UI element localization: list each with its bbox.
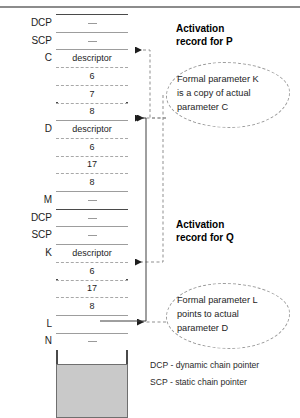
stack-row-label: D xyxy=(0,124,52,134)
activation-q-line2: record for Q xyxy=(176,231,234,244)
bubble-l-line2: points to actual xyxy=(177,307,279,321)
stack-cell xyxy=(56,209,128,227)
bubble-k-line2: is a copy of actual xyxy=(177,86,279,100)
top-divider-rule xyxy=(0,6,300,8)
empty-cell-dash xyxy=(88,41,97,42)
stack-cell-value: descriptor xyxy=(72,54,112,63)
bubble-k-line1: Formal parameter K xyxy=(177,72,279,86)
stack-cell-value: descriptor xyxy=(72,249,112,258)
stack-row-label: N xyxy=(0,336,52,346)
empty-cell-dash xyxy=(88,200,97,201)
stack-cell: 17 xyxy=(56,156,128,174)
unused-stack-space-block xyxy=(56,364,128,418)
stack-cell: 6 xyxy=(56,262,128,280)
stack-row-label: DCP xyxy=(0,213,52,223)
stack-cell xyxy=(56,191,128,209)
empty-cell-dash xyxy=(88,235,97,236)
stack-label-column: DCPSCPCDMDCPSCPKLN xyxy=(0,14,52,404)
stack-row-label: L xyxy=(0,319,52,329)
stack-cell-value: 8 xyxy=(89,107,94,116)
stack-cell-value: 6 xyxy=(89,143,94,152)
stack-cell-value: descriptor xyxy=(72,125,112,134)
stack-cell xyxy=(56,32,128,50)
stack-cell: 8 xyxy=(56,173,128,191)
stack-cell: 7 xyxy=(56,85,128,103)
stack-cell-value: 6 xyxy=(89,267,94,276)
legend-scp: SCP - static chain pointer xyxy=(150,375,247,390)
stack-row-label: M xyxy=(0,195,52,205)
stack-cell-value: 17 xyxy=(87,284,97,293)
stack-cell-value: 17 xyxy=(87,160,97,169)
dashed-connector-k-vertical xyxy=(136,95,163,262)
stack-cell: 8 xyxy=(56,103,128,121)
callout-bubble-formal-parameter-k: Formal parameter K is a copy of actual p… xyxy=(166,62,290,128)
stack-cell-value: 7 xyxy=(89,90,94,99)
legend-dcp: DCP - dynamic chain pointer xyxy=(150,358,259,373)
activation-record-p-title: Activation record for P xyxy=(176,22,233,48)
stack-cell: descriptor xyxy=(56,244,128,262)
stack-cell: 6 xyxy=(56,67,128,85)
activation-record-q-title: Activation record for Q xyxy=(176,218,234,244)
stack-row-label: SCP xyxy=(0,36,52,46)
bubble-l-line1: Formal parameter L xyxy=(177,293,279,307)
stack-row-label: DCP xyxy=(0,18,52,28)
stack-cell-value: 8 xyxy=(89,302,94,311)
stack-cell xyxy=(56,226,128,244)
callout-bubble-formal-parameter-l: Formal parameter L points to actual para… xyxy=(166,283,290,349)
empty-cell-dash xyxy=(88,218,97,219)
empty-cell-dash xyxy=(88,23,97,24)
stack-cell-value: 6 xyxy=(89,72,94,81)
activation-p-line2: record for P xyxy=(176,35,233,48)
bubble-l-line3: parameter D xyxy=(177,321,279,335)
activation-p-line1: Activation xyxy=(176,22,233,35)
stack-row-label: K xyxy=(0,248,52,258)
stack-cell xyxy=(56,333,128,351)
activation-q-line1: Activation xyxy=(176,218,234,231)
stack-cell: 17 xyxy=(56,280,128,298)
stack-cell: descriptor xyxy=(56,49,128,67)
stack-cell-value: 8 xyxy=(89,178,94,187)
runtime-stack-table: descriptor678descriptor6178descriptor617… xyxy=(56,14,128,404)
stack-row-label: C xyxy=(0,53,52,63)
stack-cell xyxy=(56,315,128,333)
stack-cell: 8 xyxy=(56,297,128,315)
stack-cell: 6 xyxy=(56,138,128,156)
stack-cell xyxy=(56,14,128,32)
stack-cell: descriptor xyxy=(56,120,128,138)
bubble-k-line3: parameter C xyxy=(177,100,279,114)
dashed-connector-k-to-c xyxy=(136,50,166,118)
empty-cell-dash xyxy=(88,341,97,342)
stack-row-label: SCP xyxy=(0,230,52,240)
